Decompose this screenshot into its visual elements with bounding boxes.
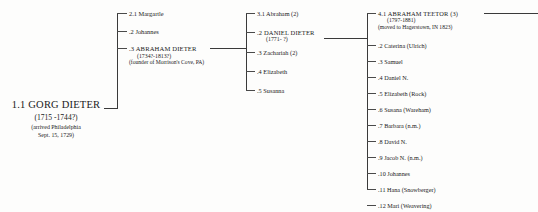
node-abraham-2: 3.1 Abraham (2): [257, 10, 298, 17]
node-elizabeth-rock: .5 Elizabeth (Rock): [378, 90, 426, 97]
stub-gen4-12: [367, 205, 376, 206]
person-name: .3 ABRAHAM DIETER: [129, 45, 204, 53]
stub-gen4-10: [367, 173, 376, 174]
stub-gen2-1: [117, 13, 127, 14]
node-mari-weavering: .12 Mari (Weavering): [378, 202, 432, 209]
trunk-gen2: [117, 13, 118, 109]
person-name: .12 Mari (Weavering): [378, 202, 432, 209]
node-caterina-ulrich: .2 Caterina (Ulrich): [378, 42, 427, 49]
stub-gen4-5: [367, 93, 376, 94]
person-name: .2 Caterina (Ulrich): [378, 42, 427, 49]
node-susanna: .5 Susanna: [257, 87, 284, 94]
connector-gen1-to-gen2: [104, 108, 117, 109]
stub-gen4-1: [367, 13, 376, 14]
person-dates: (1797-1881): [378, 17, 458, 24]
node-jacob-n: .9 Jacob N. (n.m.): [378, 154, 423, 161]
person-dates: (1771- ?): [257, 36, 315, 43]
person-name: 4.1 ABRAHAM TEETOR (3): [378, 10, 458, 17]
person-name: .3 Zachariah (2): [257, 49, 297, 56]
person-name: 2.1 Margartle: [129, 10, 164, 17]
person-dates: (1734?-1813?): [129, 53, 204, 60]
stub-gen2-2: [117, 31, 127, 32]
node-susana-wareham: .6 Susana (Wareham): [378, 106, 431, 113]
stub-gen3-4: [246, 71, 255, 72]
stub-gen4-6: [367, 109, 376, 110]
connector-gen3-to-gen4: [324, 38, 367, 39]
node-daniel-n: .4 Daniel N.: [378, 74, 408, 81]
person-note: (moved to Hagerstown, IN 1823): [378, 24, 458, 31]
stub-gen4-2: [367, 45, 376, 46]
node-elizabeth: .4 Elizabeth: [257, 68, 287, 75]
node-david-n: .8 David N.: [378, 138, 407, 145]
stub-gen4-3: [367, 61, 376, 62]
person-name: .11 Hana (Snowberger): [378, 186, 436, 193]
node-abraham-teetor: 4.1 ABRAHAM TEETOR (3) (1797-1881) (move…: [378, 10, 458, 31]
stub-gen3-2: [246, 32, 255, 33]
node-abraham-dieter: .3 ABRAHAM DIETER (1734?-1813?) (founder…: [129, 45, 204, 66]
stub-gen4-7: [367, 125, 376, 126]
node-gorg-dieter: 1.1 GORG DIETER (1715 -1744?) (arrived P…: [8, 99, 104, 139]
connector-gen2-to-gen3: [210, 48, 246, 49]
person-note: (founder of Morrison's Cove, PA): [129, 59, 204, 66]
trunk-gen4: [367, 13, 368, 189]
stub-gen4-11: [367, 189, 376, 190]
person-name: .3 Samuel: [378, 58, 403, 65]
person-name: .7 Barbara (n.m.): [378, 122, 420, 129]
stub-gen3-1: [246, 13, 255, 14]
node-johannes-4: .10 Johannes: [378, 170, 410, 177]
stub-gen3-5: [246, 90, 255, 91]
person-name: .2 DANIEL DIETER: [257, 29, 315, 36]
person-name: .4 Elizabeth: [257, 68, 287, 75]
person-name: .5 Elizabeth (Rock): [378, 90, 426, 97]
stub-gen2-3: [117, 48, 127, 49]
node-zachariah: .3 Zachariah (2): [257, 49, 297, 56]
person-note-line1: (arrived Philadelphia: [8, 124, 104, 131]
stub-gen3-3: [246, 52, 255, 53]
node-samuel: .3 Samuel: [378, 58, 403, 65]
person-name: .8 David N.: [378, 138, 407, 145]
person-name: .2 Johannes: [129, 28, 159, 35]
connector-gen4-to-gen5: [484, 13, 538, 14]
node-margartle: 2.1 Margartle: [129, 10, 164, 17]
person-dates: (1715 -1744?): [8, 114, 104, 123]
genealogy-chart: 1.1 GORG DIETER (1715 -1744?) (arrived P…: [0, 0, 538, 212]
stub-gen4-4: [367, 77, 376, 78]
person-name: .6 Susana (Wareham): [378, 106, 431, 113]
stub-gen4-8: [367, 141, 376, 142]
node-hana-snowberger: .11 Hana (Snowberger): [378, 186, 436, 193]
node-johannes: .2 Johannes: [129, 28, 159, 35]
node-daniel-dieter: .2 DANIEL DIETER (1771- ?): [257, 29, 315, 43]
stub-gen4-9: [367, 157, 376, 158]
person-name: .5 Susanna: [257, 87, 284, 94]
person-name: .10 Johannes: [378, 170, 410, 177]
person-name: .4 Daniel N.: [378, 74, 408, 81]
node-barbara: .7 Barbara (n.m.): [378, 122, 420, 129]
person-name: 3.1 Abraham (2): [257, 10, 298, 17]
person-name: .9 Jacob N. (n.m.): [378, 154, 423, 161]
person-note-line2: Sept. 15, 1729): [8, 132, 104, 139]
person-name: 1.1 GORG DIETER: [8, 99, 104, 111]
